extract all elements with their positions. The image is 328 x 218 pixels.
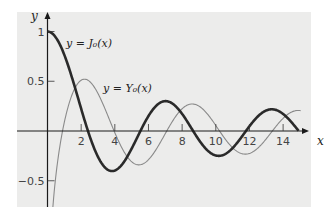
j0-curve-label: y = J₀(x) — [65, 37, 112, 50]
y-tick-label: 1 — [38, 26, 45, 39]
x-tick-label: 8 — [179, 135, 186, 148]
x-tick-label: 12 — [242, 135, 256, 148]
x-tick-label: 4 — [111, 135, 118, 148]
y-tick-label: −0.5 — [18, 175, 45, 188]
x-tick-label: 6 — [145, 135, 152, 148]
x-tick-label: 14 — [276, 135, 290, 148]
y0-curve-label: y = Y₀(x) — [102, 82, 152, 95]
y-axis-label: y — [30, 9, 38, 23]
bessel-chart: 246810121410.5−0.5 y x y = J₀(x) y = Y₀(… — [0, 0, 328, 218]
x-tick-label: 2 — [78, 135, 85, 148]
y-tick-label: 0.5 — [27, 75, 45, 88]
x-axis-label: x — [317, 134, 324, 148]
x-tick-label: 10 — [209, 135, 223, 148]
